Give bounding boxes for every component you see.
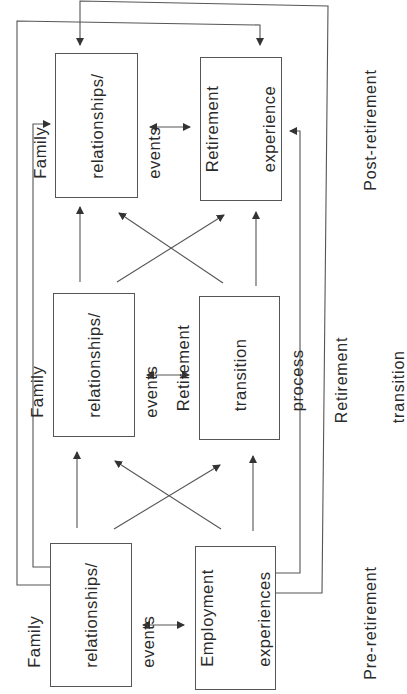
arrow-pre-family-to-mid-retirement [114, 465, 220, 529]
stage-label-post-retirement: Post-retirement [350, 55, 390, 205]
arrow-mid-retirement-to-post-family [119, 213, 223, 283]
stage-label-retirement-transition: Retirement transition [345, 315, 395, 445]
box-pre-family-relationships: Family relationships/ events [50, 543, 132, 687]
box-retirement-transition-process: Retirement transition process [199, 296, 280, 440]
box-mid-family-relationships: Family relationships/ events [53, 293, 135, 437]
arrow-mid-family-to-post-retirement [117, 215, 224, 282]
box-label: Retirement experience [165, 86, 317, 173]
box-employment-experiences: Employment experiences [195, 546, 276, 690]
retirement-conceptual-diagram: Family relationships/ events Retirement … [0, 0, 407, 694]
box-label: Employment experiences [160, 569, 312, 667]
stage-label-pre-retirement: Pre-retirement [350, 555, 390, 690]
box-post-family-relationships: Family relationships/ events [55, 53, 138, 198]
box-retirement-experience: Retirement experience [200, 57, 282, 201]
